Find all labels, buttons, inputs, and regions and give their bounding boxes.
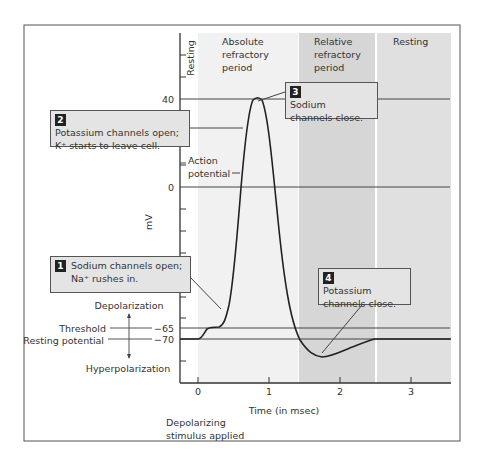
resting-right-label: Resting: [393, 36, 428, 47]
absolute-label-line3: period: [222, 62, 252, 73]
stimulus-label-line2: stimulus applied: [166, 430, 244, 441]
resting-left-label: Resting: [185, 40, 196, 75]
callout-4: 4Potassiumchannels close.: [318, 268, 411, 305]
action-label-line1: Action: [188, 155, 218, 166]
stimulus-label-line1: Depolarizing: [166, 417, 226, 428]
x-tick-1: 1: [266, 386, 272, 397]
x-tick-0: 0: [195, 386, 201, 397]
x-axis-label: Time (in msec): [248, 405, 320, 416]
threshold-label: Threshold: [58, 323, 106, 334]
absolute-label-line1: Absolute: [222, 36, 264, 47]
relative-label-line3: period: [314, 62, 344, 73]
absolute-label-line2: refractory: [222, 49, 269, 60]
x-tick-3: 3: [408, 386, 414, 397]
callout-1: 1Sodium channels open;Na⁺ rushes in.: [50, 256, 191, 293]
relative-label-line2: refractory: [314, 49, 361, 60]
callout-2-number: 2: [55, 114, 66, 126]
y-tick-minus70: −70: [154, 334, 174, 345]
y-axis-label: mV: [143, 214, 154, 230]
callout-3: 3Sodiumchannels close.: [285, 82, 378, 119]
y-tick-0: 0: [168, 182, 174, 193]
x-tick-2: 2: [337, 386, 343, 397]
hyperpolarization-label: Hyperpolarization: [86, 363, 170, 374]
callout-4-number: 4: [323, 272, 334, 284]
callout-1-number: 1: [55, 260, 66, 272]
action-potential-figure: 40 0 −65 −70 mV 0 1 2 3 Time (in msec) R…: [0, 0, 481, 474]
callout-3-number: 3: [290, 86, 301, 98]
relative-label-line1: Relative: [314, 36, 352, 47]
resting-band: [377, 33, 451, 383]
action-label-line2: potential: [188, 168, 230, 179]
y-tick-minus65: −65: [154, 323, 174, 334]
absolute-refractory-band: [198, 33, 298, 383]
callout-2: 2Potassium channels open;K⁺ starts to le…: [50, 110, 190, 147]
y-tick-40: 40: [162, 94, 174, 105]
depolarization-label: Depolarization: [94, 300, 163, 311]
resting-potential-label: Resting potential: [23, 335, 104, 346]
